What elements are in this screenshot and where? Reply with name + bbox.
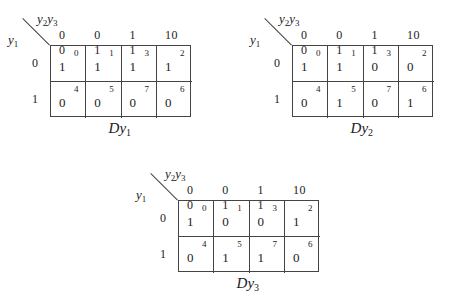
cell-value: 1 [293,214,300,230]
cell-value: 0 [222,214,229,230]
kmap-cell: 11 [86,46,121,82]
kmap-cell: 07 [122,82,157,118]
kmap-cell: 12 [285,201,320,237]
cell-value: 1 [187,214,194,230]
cell-minterm-index: 0 [74,48,79,58]
cell-minterm-index: 5 [237,239,242,249]
row-header: 1 [160,247,166,262]
col-variable-label: y2y3 [165,166,186,183]
kmap-cell: 16 [399,82,434,118]
row-header: 0 [32,56,38,71]
kmap-cell: 11 [328,46,363,82]
kmap-cell: 10 [179,201,214,237]
cell-minterm-index: 2 [308,203,313,213]
kmap-cell: 01 [214,201,249,237]
cell-value: 0 [372,59,379,75]
cell-minterm-index: 4 [202,239,207,249]
row-header: 1 [32,92,38,107]
cell-value: 1 [336,95,343,111]
kmap-cell: 12 [157,46,192,82]
kmap-grid: 1011131204050706 [50,45,191,117]
kmap-cell: 03 [364,46,399,82]
row-variable-label: y1 [250,32,260,49]
cell-minterm-index: 7 [387,84,392,94]
cell-minterm-index: 1 [237,203,242,213]
row-variable-label: y1 [136,187,146,204]
kmap-cell: 13 [122,46,157,82]
cell-minterm-index: 7 [145,84,150,94]
kmap-cell: 07 [364,82,399,118]
cell-minterm-index: 0 [316,48,321,58]
cell-value: 0 [258,214,265,230]
kmap-cell: 03 [250,201,285,237]
kmap-cell: 05 [86,82,121,118]
cell-value: 1 [222,250,229,266]
cell-value: 1 [165,59,172,75]
kmap-grid: 1011030204150716 [292,45,433,117]
kmap-cell: 06 [157,82,192,118]
cell-minterm-index: 6 [180,84,185,94]
cell-value: 0 [372,95,379,111]
row-header: 1 [274,92,280,107]
col-variable-label: y2y3 [37,11,58,28]
cell-value: 0 [130,95,137,111]
column-header: 10 [293,183,306,198]
kmap-cell: 04 [51,82,86,118]
kmap-cell: 10 [293,46,328,82]
kmap-cell: 02 [399,46,434,82]
kmap-cell: 15 [214,237,249,273]
col-variable-label: y2y3 [279,11,300,28]
cell-minterm-index: 4 [316,84,321,94]
row-header: 0 [160,211,166,226]
cell-minterm-index: 5 [351,84,356,94]
cell-value: 1 [336,59,343,75]
cell-value: 1 [59,59,66,75]
cell-minterm-index: 5 [109,84,114,94]
cell-value: 1 [407,95,414,111]
kmap-grid: 1001031204151706 [178,200,319,272]
cell-minterm-index: 3 [387,48,392,58]
kmap-cell: 15 [328,82,363,118]
cell-minterm-index: 6 [422,84,427,94]
kmap-cell: 06 [285,237,320,273]
cell-minterm-index: 1 [109,48,114,58]
cell-minterm-index: 6 [308,239,313,249]
cell-value: 1 [94,59,101,75]
cell-value: 0 [165,95,172,111]
cell-value: 0 [94,95,101,111]
cell-minterm-index: 2 [180,48,185,58]
cell-value: 0 [293,250,300,266]
cell-value: 1 [130,59,137,75]
cell-value: 0 [59,95,66,111]
map-title: Dy2 [351,120,374,138]
cell-value: 1 [301,59,308,75]
cell-minterm-index: 2 [422,48,427,58]
cell-value: 0 [187,250,194,266]
row-variable-label: y1 [8,32,18,49]
cell-minterm-index: 3 [145,48,150,58]
column-header: 10 [165,28,178,43]
cell-value: 0 [301,95,308,111]
kmap-cell: 04 [293,82,328,118]
column-header: 10 [407,28,420,43]
cell-minterm-index: 0 [202,203,207,213]
kmap-cell: 17 [250,237,285,273]
map-title: Dy1 [109,120,132,138]
map-title: Dy3 [237,275,260,293]
cell-minterm-index: 3 [273,203,278,213]
kmap-cell: 04 [179,237,214,273]
kmap-cell: 10 [51,46,86,82]
cell-minterm-index: 4 [74,84,79,94]
cell-value: 0 [407,59,414,75]
cell-value: 1 [258,250,265,266]
cell-minterm-index: 7 [273,239,278,249]
row-header: 0 [274,56,280,71]
cell-minterm-index: 1 [351,48,356,58]
